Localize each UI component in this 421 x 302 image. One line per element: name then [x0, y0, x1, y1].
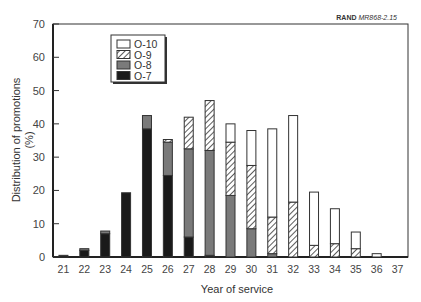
x-tick-label: 28	[204, 263, 216, 275]
bar-segment-o-7	[122, 193, 131, 257]
bar-segment-o-8	[226, 195, 235, 257]
y-tick-label: 50	[33, 85, 45, 97]
bar-year-36	[372, 254, 381, 257]
y-tick-label: 10	[33, 218, 45, 230]
x-tick-label: 32	[287, 263, 299, 275]
bar-segment-o-9	[163, 140, 172, 143]
bar-segment-o-9	[289, 202, 298, 257]
bar-year-29	[226, 124, 235, 257]
y-tick-label: 40	[33, 118, 45, 130]
bar-segment-o-7	[59, 255, 68, 257]
x-tick-label: 25	[141, 263, 153, 275]
bar-segment-o-10	[226, 124, 235, 142]
bar-year-23	[101, 231, 110, 257]
bar-segment-o-8	[247, 229, 256, 257]
y-tick-label: 30	[33, 151, 45, 163]
bar-segment-o-8	[80, 249, 89, 251]
x-tick-label: 30	[246, 263, 258, 275]
bar-year-27	[184, 117, 193, 257]
bar-segment-o-10	[289, 116, 298, 203]
bar-segment-o-8	[184, 149, 193, 237]
svg-text:(%): (%)	[23, 131, 35, 148]
legend-label: O-7	[134, 70, 152, 82]
bar-segment-o-7	[80, 250, 89, 257]
bar-segment-o-10	[247, 131, 256, 166]
bar-segment-o-9	[268, 217, 277, 254]
bar-segment-o-7	[142, 129, 151, 257]
legend-swatch	[117, 61, 130, 69]
bar-segment-o-9	[310, 245, 319, 257]
y-tick-label: 70	[33, 18, 45, 30]
bar-year-25	[142, 116, 151, 257]
x-tick-label: 21	[58, 263, 70, 275]
x-tick-label: 26	[162, 263, 174, 275]
legend-item-o-7: O-7	[117, 70, 152, 82]
bar-segment-o-8	[163, 142, 172, 175]
bar-year-31	[268, 129, 277, 257]
x-tick-label: 27	[183, 263, 195, 275]
x-tick-label: 36	[371, 263, 383, 275]
bar-segment-o-10	[351, 232, 360, 249]
x-tick-label: 23	[99, 263, 111, 275]
bar-year-26	[163, 140, 172, 257]
bar-segment-o-9	[205, 101, 214, 151]
y-tick-label: 0	[39, 251, 45, 263]
bar-year-32	[289, 116, 298, 257]
bar-segment-o-10	[330, 209, 339, 244]
bar-segment-o-7	[101, 234, 110, 257]
bar-year-22	[80, 249, 89, 257]
x-tick-label: 33	[308, 263, 320, 275]
bar-year-30	[247, 131, 256, 257]
svg-text:Distribution of promotions: Distribution of promotions	[10, 77, 22, 202]
bar-year-21	[59, 255, 68, 257]
x-tick-label: 24	[120, 263, 132, 275]
x-tick-label: 31	[266, 263, 278, 275]
bar-segment-o-10	[268, 129, 277, 217]
legend-swatch	[117, 51, 130, 59]
bar-segment-o-7	[163, 175, 172, 257]
bar-year-24	[122, 193, 131, 257]
bar-year-34	[330, 209, 339, 257]
bar-year-28	[205, 101, 214, 257]
legend-swatch	[117, 40, 130, 48]
y-axis-label: Distribution of promotions(%)	[10, 77, 35, 202]
y-tick-label: 20	[33, 184, 45, 196]
y-tick-label: 60	[33, 51, 45, 63]
bar-segment-o-9	[184, 117, 193, 149]
bar-segment-o-8	[205, 150, 214, 255]
stacked-bar-chart: 0102030405060702122232425262728293031323…	[0, 0, 421, 302]
bar-segment-o-10	[372, 254, 381, 257]
x-tick-label: 37	[392, 263, 404, 275]
bar-segment-o-7	[184, 237, 193, 257]
bar-segment-o-8	[142, 116, 151, 129]
bar-year-35	[351, 232, 360, 257]
x-tick-label: 22	[78, 263, 90, 275]
x-tick-label: 29	[225, 263, 237, 275]
bar-segment-o-9	[330, 244, 339, 257]
bar-segment-o-9	[226, 142, 235, 195]
bars	[59, 101, 381, 257]
x-tick-label: 34	[329, 263, 341, 275]
bar-segment-o-10	[310, 192, 319, 245]
bar-segment-o-9	[351, 249, 360, 257]
legend: O-10O-9O-8O-7	[111, 35, 167, 84]
bar-year-33	[310, 192, 319, 257]
x-tick-label: 35	[350, 263, 362, 275]
bar-segment-o-8	[101, 231, 110, 234]
x-axis-label: Year of service	[201, 283, 273, 295]
legend-swatch	[117, 72, 130, 80]
bar-segment-o-9	[247, 165, 256, 228]
